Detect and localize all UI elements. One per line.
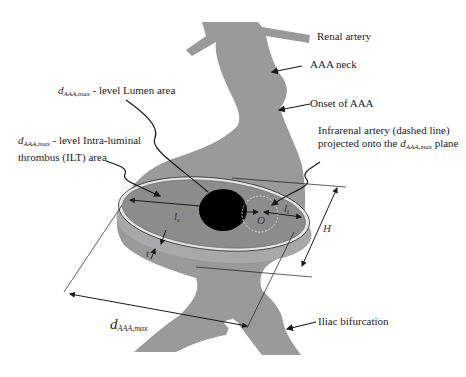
H-symbol: H — [322, 222, 332, 234]
lumen-area-label: dAAA,max - level Lumen area — [58, 84, 175, 101]
infrarenal-label: Infrarenal artery (dashed line) projecte… — [318, 124, 459, 154]
onset-of-aaa-label: Onset of AAA — [310, 97, 374, 110]
aaa-figure: le O li H t — [0, 0, 466, 377]
ilt-label-line1: dAAA,max - level Intra-luminal — [18, 134, 141, 151]
ilt-area-label: dAAA,max - level Intra-luminal thrombus … — [18, 134, 141, 164]
O-symbol: O — [257, 214, 265, 226]
dmax-label: dAAA,max — [110, 318, 148, 335]
iliac-bifurcation-label: Iliac bifurcation — [318, 315, 389, 328]
onset-arrow — [279, 104, 310, 110]
infrarenal-label-line1: Infrarenal artery (dashed line) — [318, 124, 459, 137]
lumen-area — [199, 189, 247, 231]
ilt-label-line2: thrombus (ILT) area — [18, 151, 141, 164]
aaa-diagram: le O li H t Renal artery AAA neck Onset … — [0, 0, 466, 377]
left-projection-line — [64, 205, 122, 292]
renal-artery-label: Renal artery — [317, 30, 371, 43]
infrarenal-label-line2: projected onto the dAAA,max plane — [318, 137, 459, 154]
iliac-arrow — [287, 322, 316, 329]
aaa-neck-label: AAA neck — [310, 58, 357, 71]
